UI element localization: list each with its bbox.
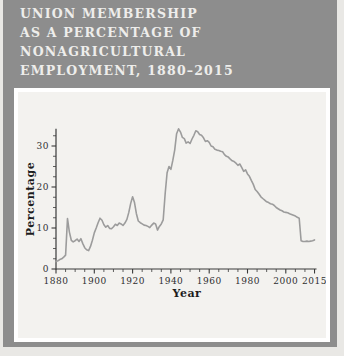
- page-background: UNION MEMBERSHIP AS A PERCENTAGE OF NONA…: [0, 0, 344, 356]
- y-tick-label: 0: [43, 264, 49, 274]
- data-line: [56, 129, 315, 262]
- x-tick-label: 2015: [302, 276, 326, 286]
- figure-title-line-2: AS A PERCENTAGE OF: [20, 23, 234, 42]
- y-tick-label: 30: [37, 141, 49, 151]
- x-axis-title: Year: [172, 287, 202, 300]
- x-tick-label: 2000: [273, 276, 298, 286]
- figure-card: UNION MEMBERSHIP AS A PERCENTAGE OF NONA…: [3, 0, 337, 347]
- y-axis-title: Percentage: [24, 162, 37, 236]
- figure-title-line-3: NONAGRICULTURAL: [20, 42, 234, 61]
- union-line-chart: 188019001920194019601980200020150102030Y…: [18, 92, 326, 338]
- figure-title: UNION MEMBERSHIP AS A PERCENTAGE OF NONA…: [20, 4, 234, 80]
- x-tick-label: 1980: [235, 276, 260, 286]
- figure-title-line-1: UNION MEMBERSHIP: [20, 4, 234, 23]
- y-tick-label: 20: [37, 182, 49, 192]
- figure-title-line-4: EMPLOYMENT, 1880–2015: [20, 61, 234, 80]
- x-tick-label: 1940: [158, 276, 183, 286]
- x-tick-label: 1920: [120, 276, 145, 286]
- x-tick-label: 1900: [82, 276, 107, 286]
- y-tick-label: 10: [37, 223, 49, 233]
- x-tick-label: 1880: [44, 276, 69, 286]
- chart-panel: 188019001920194019601980200020150102030Y…: [14, 88, 330, 342]
- x-tick-label: 1960: [197, 276, 222, 286]
